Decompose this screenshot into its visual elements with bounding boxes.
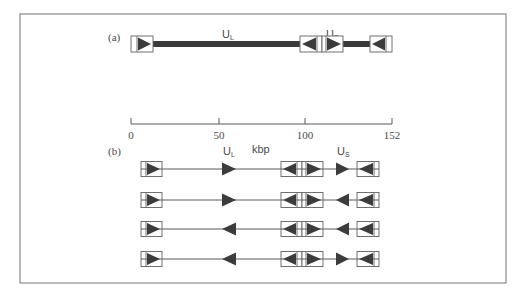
ul-orientation-arrow-left-icon [222,253,236,266]
us-segment-label-b: US [337,145,350,158]
scale-tick-label-152: 152 [384,129,401,141]
internal-repeat-long-box [281,162,302,177]
us-orientation-arrow-right-icon [336,163,349,176]
internal-repeat-long-box [281,193,302,208]
terminal-repeat-right-box [357,162,379,177]
scale-tick-label-50: 50 [214,129,226,141]
ul-orientation-arrow-right-icon [222,194,236,207]
isomer-row-1 [141,162,379,177]
scale-ticks: 050100152 [128,118,400,141]
ul-orientation-arrow-right-icon [222,163,236,176]
internal-repeat-long-box [281,252,302,267]
ul-segment-label-b: UL [223,145,235,158]
genome-map-a [131,36,392,52]
terminal-repeat-right-box [357,222,379,237]
internal-repeat-long-box [300,36,322,52]
scale-unit-label: kbp [252,143,270,155]
internal-repeat-short-box [302,193,323,208]
ul-segment-label-a: UL [222,28,234,41]
hsv-genome-isomer-diagram: (a) UL US 050100152 kbp (b) UL US [0,0,524,296]
terminal-repeat-right-box [370,36,392,52]
internal-repeat-short-box [302,222,323,237]
terminal-repeat-left-box [131,36,153,52]
terminal-repeat-left-box [141,162,162,177]
panel-a-genome-map: (a) UL US [108,28,392,52]
us-orientation-arrow-right-icon [336,253,349,266]
internal-repeat-long-box [281,222,302,237]
terminal-repeat-left-box [141,222,162,237]
isomer-row-3 [141,222,379,237]
kbp-scale: 050100152 kbp [128,118,400,155]
panel-a-label: (a) [108,31,121,44]
us-orientation-arrow-left-icon [336,223,349,236]
isomer-row-2 [141,193,379,208]
terminal-repeat-right-box [357,193,379,208]
isomer-rows [141,162,379,267]
terminal-repeat-left-box [141,252,162,267]
panel-b-label: (b) [108,145,121,158]
scale-tick-label-0: 0 [128,129,134,141]
terminal-repeat-right-box [357,252,379,267]
internal-repeat-short-box [322,36,343,52]
terminal-repeat-left-box [141,193,162,208]
ul-unique-long-bar [153,41,300,47]
internal-repeat-short-box [302,162,323,177]
us-orientation-arrow-left-icon [336,194,349,207]
scale-tick-label-100: 100 [297,129,314,141]
us-unique-short-bar [343,41,370,47]
ul-orientation-arrow-left-icon [222,223,236,236]
isomer-row-4 [141,252,379,267]
internal-repeat-short-box [302,252,323,267]
panel-b-isomers: (b) UL US [108,145,379,267]
